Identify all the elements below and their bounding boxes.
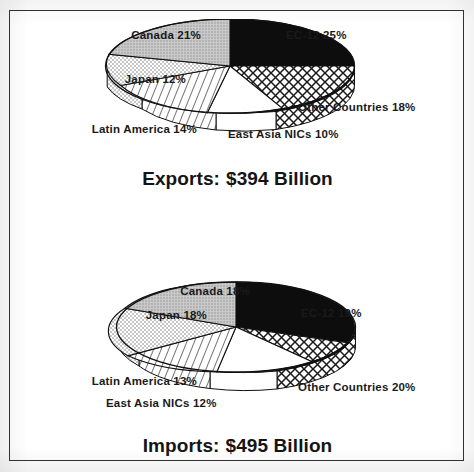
slice-ec12 [230,19,355,66]
imports-chart: Canada 18% Japan 18% EC-12 19% Latin Ame… [10,259,465,462]
exports-chart: Canada 21% EC-12 25% Japan 12% Other Cou… [10,11,465,236]
imports-label-other-countries: Other Countries 20% [298,381,416,394]
exports-label-east-asia-nics: East Asia NICs 10% [228,128,339,141]
imports-label-ec12: EC-12 19% [301,307,362,320]
imports-label-east-asia-nics: East Asia NICs 12% [106,397,217,410]
exports-label-canada: Canada 21% [10,29,201,42]
exports-label-ec12: EC-12 25% [286,29,347,42]
imports-label-latin-america: Latin America 13% [10,375,197,388]
imports-title: Imports:$495 Billion [10,435,465,457]
figure-frame: Canada 21% EC-12 25% Japan 12% Other Cou… [9,10,464,461]
scanned-page: Canada 21% EC-12 25% Japan 12% Other Cou… [0,0,474,472]
exports-label-latin-america: Latin America 14% [10,123,197,136]
imports-title-value: $495 Billion [226,435,333,456]
imports-label-canada: Canada 18% [10,285,250,298]
exports-label-other-countries: Other Countries 18% [298,101,416,114]
imports-label-japan: Japan 18% [10,309,207,322]
imports-title-label: Imports: [143,435,220,456]
exports-title-label: Exports: [142,168,220,189]
exports-label-japan: Japan 12% [10,73,186,86]
exports-title-value: $394 Billion [226,168,333,189]
exports-title: Exports:$394 Billion [10,168,465,190]
